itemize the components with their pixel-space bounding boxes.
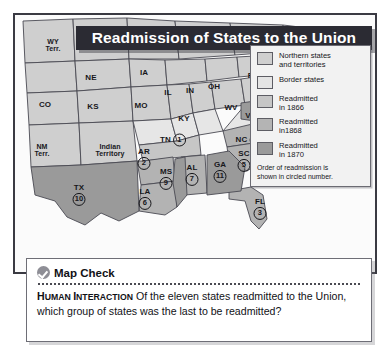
legend-swatch-icon — [257, 76, 273, 89]
question-label-h: H — [37, 290, 45, 302]
readmission-order-number: 2 — [138, 157, 151, 170]
state-abbr: FL — [255, 197, 265, 206]
state-abbr: GA — [214, 160, 226, 169]
legend-note-line2: shown in circled number. — [257, 173, 333, 180]
legend-item-label: Readmittedin 1866 — [279, 94, 318, 113]
legend-swatch-icon — [257, 52, 273, 65]
map-label-ms: MS9 — [160, 168, 173, 190]
legend-item-1: Northern statesand territories — [257, 51, 365, 70]
state-abbr: NC — [236, 136, 248, 144]
question-label: HUMAN INTERACTION — [37, 290, 133, 302]
map-label-ne: NE — [85, 74, 96, 82]
question-label-uman: UMAN — [45, 292, 73, 302]
map-label-mo: MO — [134, 102, 147, 110]
legend-swatch-icon — [257, 95, 273, 108]
map-label-sc: SC5 — [238, 150, 251, 172]
legend-item-4: Readmittedin1868 — [257, 117, 365, 136]
map-label-in: IN — [186, 87, 194, 95]
map-label-co: CO — [39, 101, 51, 109]
legend-item-label: Border states — [279, 75, 324, 84]
legend-swatch-icon — [257, 142, 273, 155]
map-label-al: AL7 — [186, 164, 199, 186]
readmission-order-number: 11 — [214, 170, 227, 183]
map-label-tx: TX10 — [73, 184, 86, 206]
state-abbr: AR — [138, 147, 150, 156]
state-abbr: MS — [160, 167, 172, 176]
map-check-panel: Map Check HUMAN INTERACTION Of the eleve… — [26, 258, 372, 342]
legend-swatch-icon — [257, 118, 273, 131]
map-legend: Northern statesand territoriesBorder sta… — [250, 45, 371, 187]
readmission-order-number: 7 — [186, 173, 199, 186]
map-label-ar: AR2 — [138, 148, 151, 170]
legend-note: Order of readmission is shown in circled… — [257, 164, 365, 181]
legend-item-label: Northern statesand territories — [279, 51, 331, 70]
readmission-order-number: 3 — [254, 207, 267, 220]
state-abbr: TX — [74, 183, 84, 192]
map-label-ky: KY — [178, 115, 189, 123]
map-label-fl: FL3 — [254, 198, 267, 220]
readmission-order-number: 9 — [160, 177, 173, 190]
map-label-ia: IA — [140, 69, 148, 77]
readmission-order-number: 1 — [173, 134, 186, 147]
map-check-question: HUMAN INTERACTION Of the eleven states r… — [27, 285, 371, 318]
map-label-oh: OH — [208, 83, 220, 91]
map-label-tn: TN1 — [160, 134, 186, 147]
map-label-la: LA6 — [139, 188, 152, 210]
question-label-nteraction: NTERACTION — [76, 292, 133, 302]
state-abbr: TN — [160, 136, 171, 144]
map-frame: .s{stroke:#4a4a52;stroke-width:.9;} .nor… — [13, 13, 377, 274]
map-label-ga: GA11 — [214, 161, 227, 183]
map-label-wy-terr: WYTerr. — [45, 38, 60, 52]
map-label-indian-territory: IndianTerritory — [95, 143, 124, 157]
state-abbr: AL — [187, 163, 198, 172]
readmission-order-number: 5 — [238, 159, 251, 172]
map-label-wv: WV — [224, 104, 237, 112]
legend-note-line1: Order of readmission is — [257, 164, 328, 171]
legend-item-label: Readmittedin 1870 — [279, 141, 318, 160]
map-label-il: IL — [164, 89, 171, 97]
legend-item-3: Readmittedin 1866 — [257, 94, 365, 113]
state-abbr: LA — [140, 187, 151, 196]
checkmark-icon — [37, 266, 50, 279]
legend-item-label: Readmittedin1868 — [279, 117, 318, 136]
figure-page: .s{stroke:#4a4a52;stroke-width:.9;} .nor… — [0, 0, 386, 347]
map-check-title: Map Check — [54, 267, 115, 279]
legend-item-5: Readmittedin 1870 — [257, 141, 365, 160]
legend-item-2: Border states — [257, 75, 365, 89]
map-canvas: .s{stroke:#4a4a52;stroke-width:.9;} .nor… — [15, 15, 375, 272]
state-abbr: SC — [238, 149, 249, 158]
readmission-order-number: 6 — [139, 197, 152, 210]
map-label-nm-terr: NMTerr. — [34, 143, 49, 157]
map-label-ks: KS — [87, 103, 98, 111]
readmission-order-number: 10 — [73, 193, 86, 206]
map-check-header: Map Check — [27, 259, 371, 279]
